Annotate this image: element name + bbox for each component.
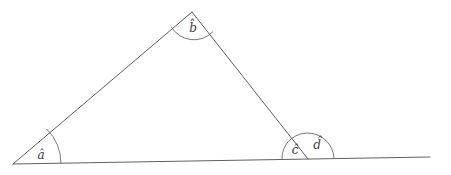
- diagram-canvas: [0, 0, 451, 175]
- angle-c-outer-arc: [282, 142, 288, 158]
- angle-b-label: b̂: [189, 22, 197, 34]
- angle-a-arc: [47, 129, 61, 163]
- angle-a-label: â: [37, 149, 44, 161]
- angle-d-label: d̂: [313, 139, 321, 151]
- angle-c-label: ĉ: [292, 144, 299, 156]
- base-line: [13, 157, 430, 164]
- angle-d-lower-arc: [326, 141, 334, 158]
- geometry-diagram: â b̂ ĉ d̂: [0, 0, 451, 175]
- right-side-line: [192, 12, 308, 159]
- left-side-line: [13, 12, 192, 164]
